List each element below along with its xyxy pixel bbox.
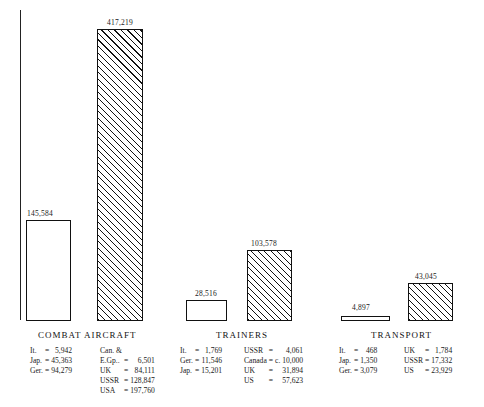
legend-value: 94,279 (51, 366, 74, 376)
legend-country: UK (244, 366, 269, 376)
legend-country: Jap. (30, 356, 45, 366)
bar-value-combat-allied: 417,219 (84, 18, 156, 27)
legend-country: It. (339, 346, 354, 356)
bar-chart: 145,584 417,219 COMBAT AIRCRAFT It. = 5,… (0, 0, 484, 407)
bar-value-trainers-allied: 103,578 (232, 239, 296, 248)
legend-row: Ger. = 3,079 (339, 366, 379, 376)
section-title-combat-aircraft: COMBAT AIRCRAFT (38, 330, 137, 340)
legend-value: 1,350 (360, 356, 379, 366)
bar-combat-axis (26, 220, 71, 321)
legend-country: UK (404, 346, 425, 356)
legend-row: Jap. = 1,350 (339, 356, 379, 366)
legend-value: 4,061 (275, 346, 305, 356)
legend-row: USSR = 128,847 (100, 376, 157, 386)
vertical-axis-line (20, 10, 21, 320)
legend-country: USSR (404, 356, 425, 366)
legend-row: UK = 31,894 (244, 366, 305, 376)
bar-trainers-allied (247, 250, 292, 321)
legend-country: E.Gp.. (100, 356, 124, 366)
legend-value: 5,942 (51, 346, 74, 356)
bar-trainers-axis (186, 300, 227, 321)
legend-row: Jap. = 15,201 (180, 366, 224, 376)
legend-value: 197,760 (130, 386, 157, 396)
section-title-transport: TRANSPORT (371, 330, 432, 340)
legend-row: USA = 197,760 (100, 386, 157, 396)
legend-country: USA (100, 386, 124, 396)
legend-value: 84,111 (130, 366, 157, 376)
legend-transport-axis: It. = 468 Jap. = 1,350 Ger. = 3,079 (339, 346, 379, 376)
legend-value: 3,079 (360, 366, 379, 376)
legend-country: Jap. (339, 356, 354, 366)
legend-value: 17,332 (431, 356, 454, 366)
legend-row: UK = 84,111 (100, 366, 157, 376)
legend-value: 128,847 (130, 376, 157, 386)
legend-country: Ger. (180, 356, 195, 366)
legend-row: It. = 468 (339, 346, 379, 356)
legend-row: US = 23,929 (404, 366, 454, 376)
bar-value-combat-axis: 145,584 (4, 209, 76, 218)
legend-trainers-axis: It. = 1,769 Ger. = 11,546 Jap. = 15,201 (180, 346, 224, 376)
legend-value: 11,546 (201, 356, 224, 366)
legend-combat-allied: Can. & E.Gp.. = 6,501 UK = 84,111 USSR =… (100, 346, 157, 396)
legend-transport-allied: UK = 1,784 USSR = 17,332 US = 23,929 (404, 346, 454, 376)
legend-row: Ger. = 94,279 (30, 366, 74, 376)
legend-country: USSR (244, 346, 269, 356)
legend-country: It. (30, 346, 45, 356)
legend-value: 31,894 (275, 366, 305, 376)
bar-transport-allied (408, 283, 453, 321)
legend-value: 1,784 (431, 346, 454, 356)
legend-row: Ger. = 11,546 (180, 356, 224, 366)
legend-country: Jap. (180, 366, 195, 376)
legend-row: It. = 5,942 (30, 346, 74, 356)
legend-value: c. 10,000 (275, 356, 305, 366)
legend-value: 6,501 (130, 356, 157, 366)
legend-row: Jap. = 45,363 (30, 356, 74, 366)
legend-country: US (244, 376, 269, 386)
bar-combat-allied (97, 29, 143, 321)
legend-country: Ger. (30, 366, 45, 376)
legend-country: Can. & (100, 346, 124, 356)
bar-value-transport-allied: 43,045 (396, 272, 456, 281)
legend-value: 1,769 (201, 346, 224, 356)
legend-row: Canada = c. 10,000 (244, 356, 305, 366)
legend-country: US (404, 366, 425, 376)
legend-value: 15,201 (201, 366, 224, 376)
bar-transport-axis (341, 316, 390, 321)
legend-value: 468 (360, 346, 379, 356)
legend-value: 57,623 (275, 376, 305, 386)
legend-country: USSR (100, 376, 124, 386)
legend-row: USSR = 17,332 (404, 356, 454, 366)
legend-country: Canada (244, 356, 269, 366)
legend-value: 45,363 (51, 356, 74, 366)
legend-row: Can. & (100, 346, 157, 356)
legend-country: It. (180, 346, 195, 356)
legend-row: It. = 1,769 (180, 346, 224, 356)
legend-value (130, 346, 157, 356)
legend-combat-axis: It. = 5,942 Jap. = 45,363 Ger. = 94,279 (30, 346, 74, 376)
legend-row: US = 57,623 (244, 376, 305, 386)
section-title-trainers: TRAINERS (216, 330, 268, 340)
legend-country: UK (100, 366, 124, 376)
legend-row: USSR = 4,061 (244, 346, 305, 356)
legend-row: E.Gp.. = 6,501 (100, 356, 157, 366)
legend-value: 23,929 (431, 366, 454, 376)
legend-country: Ger. (339, 366, 354, 376)
bar-value-trainers-axis: 28,516 (176, 289, 236, 298)
legend-row: UK = 1,784 (404, 346, 454, 356)
legend-trainers-allied: USSR = 4,061 Canada = c. 10,000 UK = 31,… (244, 346, 305, 386)
bar-value-transport-axis: 4,897 (333, 303, 389, 312)
